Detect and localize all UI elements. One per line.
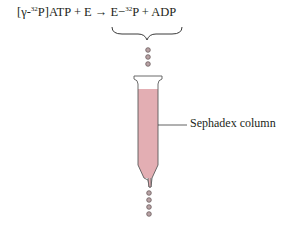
sephadex-diagram	[0, 0, 291, 225]
drops-above	[146, 48, 151, 67]
drop	[147, 212, 152, 217]
drop	[146, 48, 151, 53]
product-brace	[112, 27, 182, 40]
column-tip	[148, 178, 151, 187]
drop	[147, 205, 152, 210]
drop	[147, 191, 152, 196]
sephadex-column	[134, 76, 162, 187]
column-fill	[138, 89, 158, 178]
drops-below	[147, 191, 152, 217]
column-label: Sephadex column	[190, 116, 276, 131]
drop	[147, 198, 152, 203]
drop	[146, 62, 151, 67]
drop	[146, 55, 151, 60]
